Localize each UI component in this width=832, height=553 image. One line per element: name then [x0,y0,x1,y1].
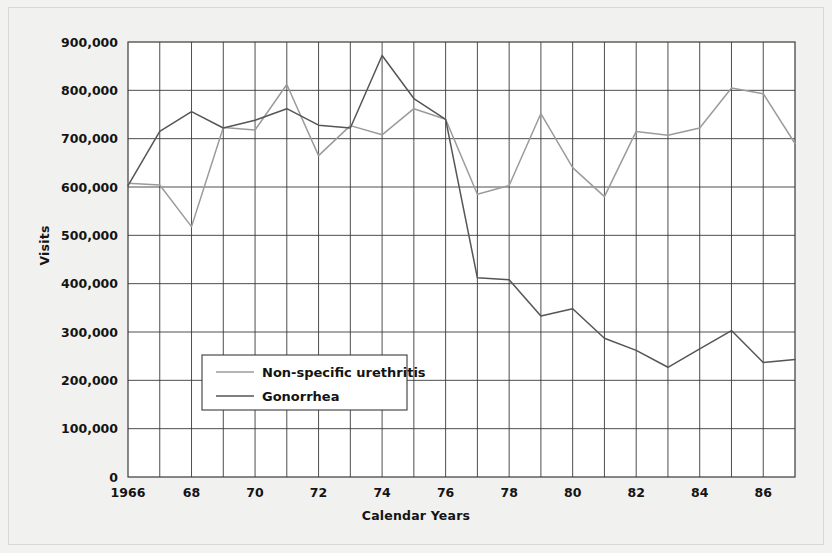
y-tick-label: 300,000 [61,325,118,340]
y-tick-label: 800,000 [61,83,118,98]
y-tick-label: 700,000 [61,131,118,146]
x-tick-label: 84 [691,485,709,500]
chart-legend: Non-specific urethritisGonorrhea [202,355,426,410]
y-axis-tick-labels: 0100,000200,000300,000400,000500,000600,… [61,35,118,485]
y-tick-label: 200,000 [61,373,118,388]
y-tick-label: 100,000 [61,421,118,436]
legend-label: Non-specific urethritis [262,365,426,380]
x-tick-label: 70 [246,485,264,500]
x-tick-label: 74 [373,485,391,500]
y-tick-label: 900,000 [61,35,118,50]
figure-container: Visits Calendar Years 0100,000200,000300… [0,0,832,553]
x-tick-label: 72 [310,485,327,500]
x-tick-label: 78 [500,485,517,500]
x-tick-label: 80 [564,485,582,500]
x-tick-label: 1966 [111,485,146,500]
plot-area-background [128,42,795,477]
y-tick-label: 600,000 [61,180,118,195]
legend-label: Gonorrhea [262,389,339,404]
y-tick-label: 500,000 [61,228,118,243]
y-tick-label: 400,000 [61,276,118,291]
x-tick-label: 86 [755,485,773,500]
line-chart: 0100,000200,000300,000400,000500,000600,… [0,0,832,553]
x-axis-tick-labels: 196668707274767880828486 [111,485,773,500]
x-tick-label: 82 [627,485,644,500]
x-tick-label: 68 [183,485,200,500]
y-tick-label: 0 [109,470,118,485]
x-tick-label: 76 [437,485,455,500]
